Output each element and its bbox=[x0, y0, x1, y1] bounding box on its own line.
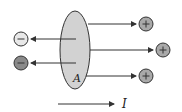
negative-charge-2 bbox=[14, 56, 28, 70]
current-label: I bbox=[121, 97, 127, 111]
current-diagram: A I bbox=[0, 0, 182, 112]
positive-charge-2 bbox=[156, 43, 170, 57]
positive-charge-3 bbox=[139, 69, 153, 83]
positive-charge-1 bbox=[139, 17, 153, 31]
negative-charge-1 bbox=[14, 32, 28, 46]
surface-label: A bbox=[72, 72, 81, 85]
